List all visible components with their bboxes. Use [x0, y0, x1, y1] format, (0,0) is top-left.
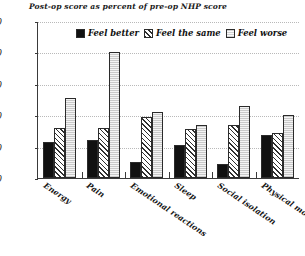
bar-group-energy [38, 22, 82, 178]
bar-group-physical-mobility [256, 22, 300, 178]
bar-sleep-feel-worse [196, 125, 207, 178]
x-axis-category-labels: EnergyPainEmotional reactionsSleepSocial… [37, 179, 299, 249]
bar-social-isolation-feel-the-same [228, 125, 239, 178]
y-tick-label-100: 100 [0, 111, 2, 121]
bar-energy-feel-the-same [54, 128, 65, 178]
bar-group-pain [82, 22, 126, 178]
legend-item-feel-worse: Feel worse [226, 28, 288, 38]
legend-swatch-feel-the-same [144, 29, 153, 38]
bar-pain-feel-better [87, 140, 98, 178]
chart-title: Post-op score as percent of pre-op NHP s… [29, 2, 227, 11]
plot-area [37, 22, 299, 179]
bar-sleep-feel-better [174, 145, 185, 178]
bar-social-isolation-feel-worse [239, 106, 250, 178]
bar-group-social-isolation [212, 22, 256, 178]
y-tick-label-200: 200 [0, 48, 2, 58]
bar-emotional-reactions-feel-worse [152, 112, 163, 178]
legend-swatch-feel-worse [226, 29, 235, 38]
y-tick-label-0: 0 [0, 174, 2, 184]
x-axis-label-pain: Pain [85, 181, 106, 199]
y-tick-label-150: 150 [0, 80, 2, 90]
x-axis-label-physical-mobility: Physical mobility [260, 181, 305, 231]
y-tick-label-50: 50 [0, 143, 2, 153]
bar-sleep-feel-the-same [185, 129, 196, 178]
y-tick-label-250: 250 [0, 17, 2, 27]
bar-group-emotional-reactions [125, 22, 169, 178]
bar-energy-feel-better [43, 142, 54, 178]
bar-physical-mobility-feel-better [261, 135, 272, 178]
bar-emotional-reactions-feel-the-same [141, 117, 152, 178]
legend-item-feel-better: Feel better [76, 28, 139, 38]
bar-pain-feel-worse [109, 52, 120, 178]
bar-social-isolation-feel-better [217, 164, 228, 178]
bar-groups [38, 22, 299, 178]
x-axis-label-energy: Energy [42, 181, 73, 206]
bar-chart: Post-op score as percent of pre-op NHP s… [0, 0, 305, 256]
bar-physical-mobility-feel-the-same [272, 133, 283, 178]
chart-legend: Feel betterFeel the sameFeel worse [76, 28, 287, 38]
bar-physical-mobility-feel-worse [283, 115, 294, 178]
legend-label-feel-worse: Feel worse [238, 28, 288, 38]
legend-label-feel-better: Feel better [88, 28, 139, 38]
legend-swatch-feel-better [76, 29, 85, 38]
x-axis-label-sleep: Sleep [173, 181, 198, 202]
bar-pain-feel-the-same [98, 128, 109, 178]
bar-energy-feel-worse [65, 98, 76, 178]
x-axis-label-emotional-reactions: Emotional reactions [129, 181, 208, 238]
bar-emotional-reactions-feel-better [130, 162, 141, 178]
legend-label-feel-the-same: Feel the same [156, 28, 221, 38]
legend-item-feel-the-same: Feel the same [144, 28, 221, 38]
bar-group-sleep [169, 22, 213, 178]
